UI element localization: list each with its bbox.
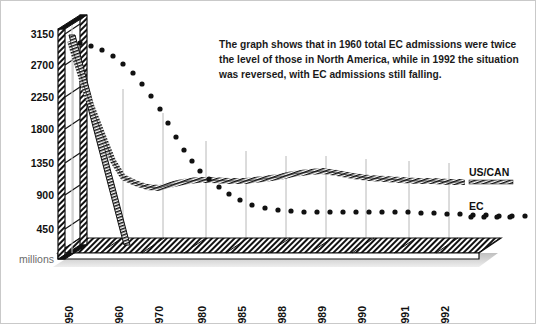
x-tick-label: 1960: [113, 306, 125, 324]
x-tick-label: 1988: [276, 306, 288, 324]
x-tick-label: 1991: [399, 306, 411, 324]
y-tick-label: 1350: [31, 157, 55, 169]
x-tick-label: 1989: [316, 306, 328, 324]
x-tick-label: 1992: [439, 306, 451, 324]
x-tick-label: 1985: [236, 306, 248, 324]
y-axis-unit-label: millions: [19, 253, 54, 265]
chart-canvas: 3150 2700 2250 1800 1350 900 450 million…: [1, 1, 536, 324]
x-tick-label: 1950: [63, 306, 75, 324]
annotation-line-2: the level of those in North America, whi…: [219, 54, 519, 65]
y-tick-label: 1800: [31, 123, 55, 135]
legend-label-ec: EC: [469, 200, 484, 212]
y-tick-label: 2250: [31, 91, 55, 103]
annotation-line-3: was reversed, with EC admissions still f…: [218, 69, 442, 80]
x-tick-label: 1980: [196, 306, 208, 324]
y-tick-label: 2700: [31, 59, 55, 71]
x-tick-label: 1970: [153, 306, 165, 324]
annotation-line-1: The graph shows that in 1960 total EC ad…: [219, 39, 517, 50]
legend-swatch-uscan: [469, 180, 513, 184]
legend-label-uscan: US/CAN: [469, 166, 509, 178]
y-tick-label: 900: [36, 189, 54, 201]
x-tick-label: 1990: [356, 306, 368, 324]
y-tick-label: 3150: [31, 28, 55, 40]
y-tick-label: 450: [36, 223, 54, 235]
chart-figure: 3150 2700 2250 1800 1350 900 450 million…: [0, 0, 536, 324]
